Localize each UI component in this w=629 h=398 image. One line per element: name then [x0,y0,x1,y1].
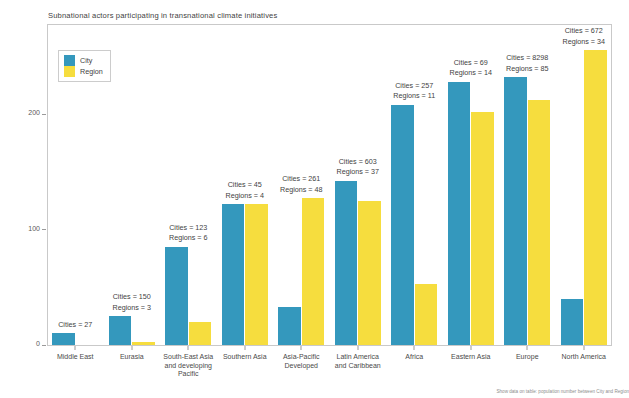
annotation-regions: Regions = 14 [449,68,492,79]
bar-region[interactable] [415,284,438,345]
bar-annotation: Cities = 672Regions = 34 [562,26,605,47]
x-axis-tick-mark [357,346,358,350]
bar-group: Cities = 69Regions = 14 [443,24,500,346]
bar-city[interactable] [165,247,188,345]
bar-region[interactable] [471,112,494,345]
bar-pair [160,24,217,346]
annotation-cities: Cities = 27 [58,320,92,331]
bar-city[interactable] [222,204,245,345]
annotation-regions: Regions = 11 [393,91,435,102]
bar-annotation: Cities = 123Regions = 6 [169,223,208,244]
chart-footnote: Show data on table: population number be… [398,389,629,394]
x-axis-tick-mark [244,346,245,350]
bar-pair [330,24,387,346]
bar-region[interactable] [245,204,268,345]
legend-item[interactable]: Region [64,66,103,77]
bar-annotation: Cities = 45Regions = 4 [225,180,264,201]
annotation-cities: Cities = 261 [280,174,323,185]
x-axis-tick-mark [301,346,302,350]
x-axis-tick-mark [470,346,471,350]
x-axis-tick-mark [527,346,528,350]
annotation-regions: Regions = 34 [562,37,605,48]
chart-legend: CityRegion [58,50,111,82]
bar-annotation: Cities = 603Regions = 37 [336,157,379,178]
annotation-cities: Cities = 8298 [506,53,549,64]
x-axis: Middle EastEurasiaSouth-East Asiaand dev… [47,346,612,390]
bar-annotation: Cities = 261Regions = 48 [280,174,323,195]
y-axis-tick-mark [42,114,46,115]
annotation-cities: Cities = 672 [562,26,605,37]
y-axis-tick-label: 0 [36,340,40,347]
bar-region[interactable] [189,322,212,345]
bar-region[interactable] [132,342,155,345]
bar-group: Cities = 150Regions = 3 [104,24,161,346]
annotation-cities: Cities = 150 [112,292,151,303]
legend-label: Region [80,67,103,76]
bar-city[interactable] [109,316,132,345]
x-axis-tick-mark [75,346,76,350]
bar-region[interactable] [584,50,607,345]
bar-group: Cities = 45Regions = 4 [217,24,274,346]
bar-annotation: Cities = 150Regions = 3 [112,292,151,313]
annotation-regions: Regions = 3 [112,303,151,314]
y-axis-tick-label: 200 [28,109,40,116]
annotation-cities: Cities = 123 [169,223,208,234]
y-axis-tick-mark [42,229,46,230]
chart-figure: Subnational actors participating in tran… [0,0,629,398]
bar-annotation: Cities = 257Regions = 11 [393,81,435,102]
bar-group: Cities = 123Regions = 6 [160,24,217,346]
bar-city[interactable] [278,307,301,345]
bar-pair [386,24,443,346]
bar-city[interactable] [448,82,471,345]
legend-label: City [80,56,92,65]
annotation-regions: Regions = 48 [280,185,323,196]
bar-pair [556,24,613,346]
bar-region[interactable] [528,100,551,345]
annotation-cities: Cities = 45 [225,180,264,191]
bar-city[interactable] [504,77,527,345]
annotation-cities: Cities = 69 [449,58,492,69]
annotation-cities: Cities = 603 [336,157,379,168]
annotation-cities: Cities = 257 [393,81,435,92]
x-axis-tick-mark [583,346,584,350]
y-axis-tick-label: 100 [28,225,40,232]
legend-swatch-city [64,55,75,66]
bar-city[interactable] [561,299,584,345]
bar-group: Cities = 261Regions = 48 [273,24,330,346]
x-axis-tick-mark [414,346,415,350]
y-axis-tick-mark [42,345,46,346]
legend-swatch-region [64,66,75,77]
x-axis-tick-mark [131,346,132,350]
annotation-regions: Regions = 85 [506,64,549,75]
annotation-regions: Regions = 37 [336,167,379,178]
annotation-regions: Regions = 6 [169,233,208,244]
bar-group: Cities = 603Regions = 37 [330,24,387,346]
bar-annotation: Cities = 69Regions = 14 [449,58,492,79]
bar-group: Cities = 257Regions = 11 [386,24,443,346]
bar-group: Cities = 8298Regions = 85 [499,24,556,346]
bar-city[interactable] [52,333,75,345]
bar-annotation: Cities = 27 [58,320,92,331]
bar-city[interactable] [335,181,358,345]
plot-area: Cities = 27Cities = 150Regions = 3Cities… [47,24,612,346]
x-axis-tick-mark [188,346,189,350]
annotation-regions: Regions = 4 [225,191,264,202]
legend-item[interactable]: City [64,55,103,66]
x-axis-tick-label: North America [549,353,620,362]
bar-region[interactable] [302,198,325,345]
chart-title: Subnational actors participating in tran… [48,11,277,20]
bar-city[interactable] [391,105,414,345]
bar-annotation: Cities = 8298Regions = 85 [506,53,549,74]
bar-region[interactable] [358,201,381,345]
bar-group: Cities = 672Regions = 34 [556,24,613,346]
